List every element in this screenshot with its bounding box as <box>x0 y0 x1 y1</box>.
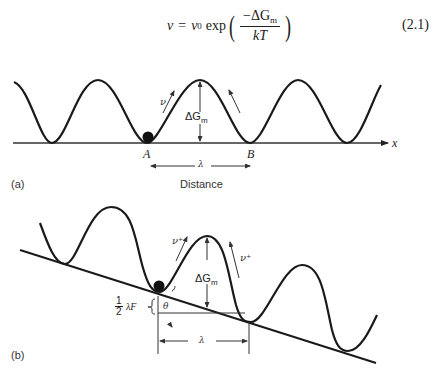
barrier-a-label: ΔGm <box>185 110 208 125</box>
barrier-b-text: ΔG <box>195 272 211 284</box>
forward-frequency-label: ν⁺ <box>172 235 183 246</box>
lambda-b-label: λ <box>199 335 205 345</box>
half-fraction: 1 2 <box>115 296 123 317</box>
panel-a-label: (a) <box>11 178 24 190</box>
half-lambda-f-brace <box>148 299 155 314</box>
angle-theta-label: θ <box>163 301 168 311</box>
jump-arrow-backward <box>229 90 240 113</box>
barrier-a-text: ΔG <box>185 110 201 122</box>
panel-b-label: (b) <box>11 349 24 361</box>
backward-frequency-label: ν⁺ <box>240 252 251 263</box>
diffusion-energy-diagram <box>0 0 447 373</box>
angle-pointer-lower <box>169 323 172 327</box>
barrier-a-sub: m <box>201 116 208 125</box>
atom-ball-a <box>143 132 154 143</box>
x-axis-label: x <box>392 136 397 151</box>
jump-frequency-label: ν <box>160 96 166 107</box>
backward-jump-arrow <box>230 242 239 278</box>
point-a-label: A <box>143 147 150 162</box>
barrier-b-sub: m <box>211 278 218 287</box>
energy-shift-label: λF <box>126 301 136 312</box>
atom-ball-b <box>154 281 165 292</box>
tilted-baseline <box>20 250 376 363</box>
lambda-a-label: λ <box>198 159 204 169</box>
angle-pointer-upper <box>172 286 175 291</box>
point-b-label: B <box>247 147 254 162</box>
distance-label: Distance <box>180 178 223 190</box>
barrier-b-label: ΔGm <box>195 272 218 287</box>
half-denominator: 2 <box>116 307 122 317</box>
